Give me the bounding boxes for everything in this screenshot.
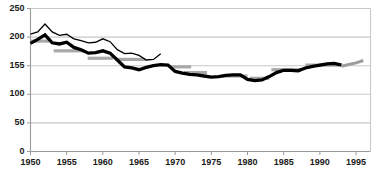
thick-line-series <box>31 35 342 81</box>
grid-lines <box>31 9 371 152</box>
x-tick-label-1975: 1975 <box>191 158 231 167</box>
y-tick-label-0: 0 <box>19 147 24 156</box>
axis-ticks <box>27 9 356 156</box>
x-tick-label-1980: 1980 <box>228 158 268 167</box>
x-tick-label-1990: 1990 <box>300 158 340 167</box>
y-tick-label-155: 155 <box>9 61 24 70</box>
x-tick-label-1950: 1950 <box>11 158 51 167</box>
x-tick-label-1985: 1985 <box>264 158 304 167</box>
x-tick-label-1955: 1955 <box>47 158 87 167</box>
x-tick-label-1965: 1965 <box>119 158 159 167</box>
y-tick-label-100: 100 <box>9 89 24 98</box>
line-chart: 050100155200250 195019551960196519701975… <box>0 0 385 177</box>
plot-frame <box>31 9 371 152</box>
y-tick-label-250: 250 <box>9 4 24 13</box>
plot-area <box>0 0 385 177</box>
x-tick-label-1995: 1995 <box>336 158 376 167</box>
x-tick-label-1960: 1960 <box>83 158 123 167</box>
y-tick-label-200: 200 <box>9 32 24 41</box>
x-tick-label-1970: 1970 <box>155 158 195 167</box>
y-tick-label-50: 50 <box>14 118 24 127</box>
